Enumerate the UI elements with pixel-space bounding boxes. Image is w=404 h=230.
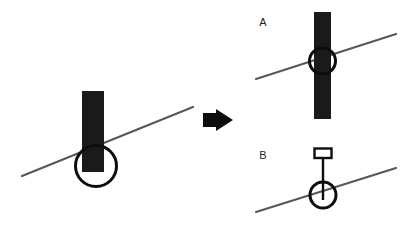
figure-background	[0, 0, 404, 230]
diagram-canvas: A B	[0, 0, 404, 230]
panel-b-label: B	[259, 149, 266, 161]
panel-a-label: A	[259, 16, 267, 28]
figure-container: A B	[0, 0, 404, 230]
thick-bar-a	[314, 12, 331, 119]
thick-bar-before	[82, 91, 104, 172]
